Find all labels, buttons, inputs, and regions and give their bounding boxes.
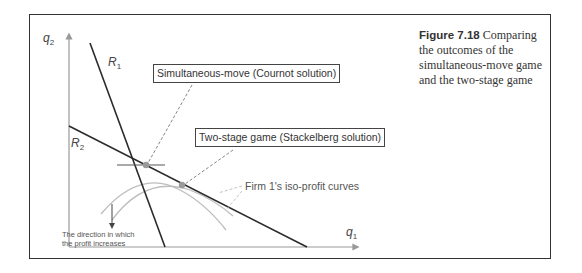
figure-caption: Figure 7.18 Comparing the outcomes of th… xyxy=(419,28,549,88)
cournot-point xyxy=(143,162,149,168)
profit-direction-line-1: The direction in which xyxy=(62,230,135,239)
isoprofit-curve-inner xyxy=(112,186,233,220)
cournot-leader-line xyxy=(148,85,192,163)
r2-label: R2 xyxy=(71,136,84,152)
figure-number: Figure 7.18 xyxy=(419,29,480,41)
profit-direction-line-2: the profit increases xyxy=(62,239,135,248)
x-axis-label: q1 xyxy=(346,225,357,241)
isoprofit-leader-line-2 xyxy=(226,191,242,210)
isoprofit-label: Firm 1's iso-profit curves xyxy=(245,180,359,192)
r1-label: R1 xyxy=(108,55,121,71)
stackelberg-point xyxy=(179,182,185,188)
y-axis-label: q2 xyxy=(43,31,54,47)
isoprofit-curve-outer xyxy=(101,183,226,230)
isoprofit-leader-line-1 xyxy=(218,186,242,193)
stackelberg-label: Two-stage game (Stackelberg solution) xyxy=(195,128,385,147)
stackelberg-leader-line xyxy=(185,150,233,184)
profit-direction-note: The direction in which the profit increa… xyxy=(62,230,135,248)
cournot-label: Simultaneous-move (Cournot solution) xyxy=(153,64,340,83)
